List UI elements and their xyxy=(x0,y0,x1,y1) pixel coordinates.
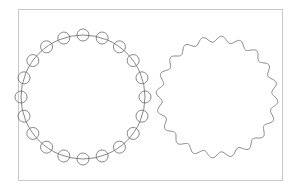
wavy-circle xyxy=(156,36,278,158)
main-circle xyxy=(21,35,145,159)
diagram-canvas xyxy=(0,0,300,194)
bead-circles xyxy=(15,29,151,165)
beaded-circle xyxy=(15,29,151,165)
